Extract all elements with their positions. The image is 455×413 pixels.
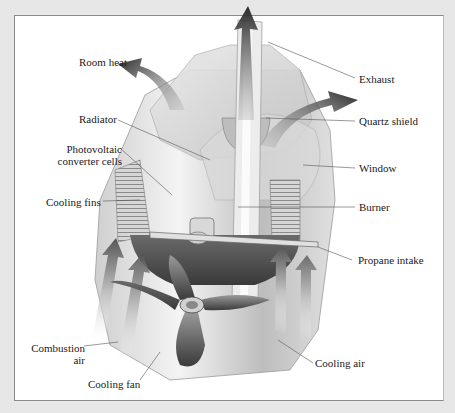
label-room-heat: Room heat bbox=[79, 56, 127, 68]
label-cooling-air: Cooling air bbox=[315, 357, 365, 369]
label-burner: Burner bbox=[359, 201, 390, 213]
label-combustion-air: Combustion air bbox=[30, 342, 85, 366]
label-exhaust: Exhaust bbox=[359, 73, 394, 85]
label-cooling-fins: Cooling fins bbox=[46, 196, 101, 208]
label-quartz-shield: Quartz shield bbox=[359, 115, 418, 127]
label-cooling-fan: Cooling fan bbox=[88, 378, 140, 390]
label-photovoltaic-converter-cells: Photovoltaic converter cells bbox=[52, 143, 122, 167]
label-window: Window bbox=[359, 162, 396, 174]
label-radiator: Radiator bbox=[79, 113, 117, 125]
cooling-fins-right bbox=[270, 180, 300, 242]
label-propane-intake: Propane intake bbox=[358, 254, 424, 266]
